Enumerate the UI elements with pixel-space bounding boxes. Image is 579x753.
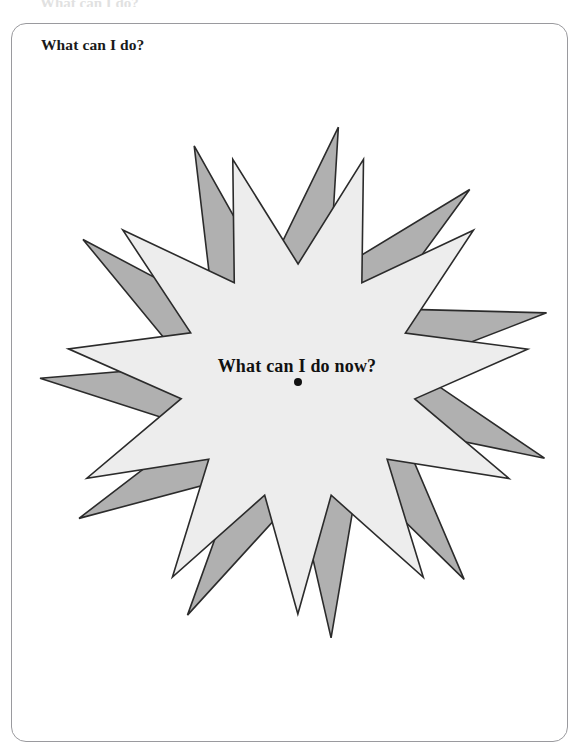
- front-starburst-shape: [68, 159, 527, 614]
- center-dot-marker: [294, 378, 302, 386]
- page-canvas: What can I do? What can I do? What can I…: [0, 0, 579, 753]
- center-annotation-label: What can I do now?: [12, 356, 567, 377]
- content-card: What can I do? What can I do now?: [11, 23, 568, 742]
- back-starburst-shape: [40, 127, 547, 638]
- starburst-figure: [12, 24, 569, 743]
- center-annotation-text: What can I do now?: [218, 356, 377, 376]
- page-title: What can I do?: [41, 36, 144, 54]
- starburst-svg: [12, 24, 569, 743]
- page-top-crop-remnant: What can I do?: [40, 0, 340, 7]
